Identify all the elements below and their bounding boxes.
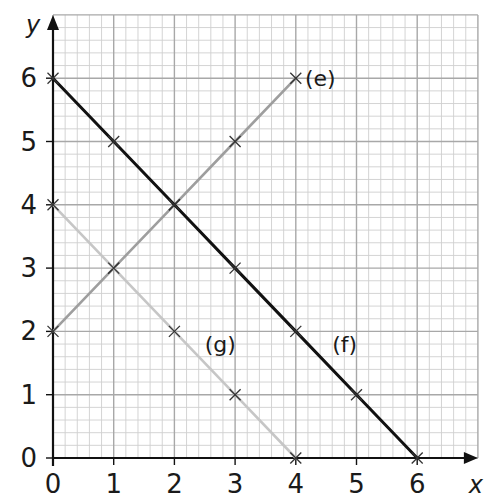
y-tick-label: 0: [20, 443, 37, 473]
x-tick-label: 6: [409, 469, 426, 499]
y-tick-label: 3: [20, 253, 37, 283]
x-tick-label: 2: [166, 469, 183, 499]
x-tick-label: 0: [45, 469, 62, 499]
series-label: (e): [305, 66, 336, 91]
y-tick-label: 6: [20, 63, 37, 93]
y-tick-label: 4: [20, 190, 37, 220]
x-tick-label: 1: [105, 469, 122, 499]
y-tick-label: 2: [20, 316, 37, 346]
series-e: (e): [48, 66, 336, 337]
series-label: (g): [205, 332, 236, 357]
grid-major: [53, 15, 478, 458]
y-tick-label: 1: [20, 380, 37, 410]
x-axis-arrow-icon: [464, 452, 478, 464]
grid-minor: [53, 15, 478, 458]
x-tick-label: 4: [288, 469, 305, 499]
x-axis-label: x: [468, 471, 484, 499]
y-axis-arrow-icon: [47, 15, 59, 30]
y-axis-label: y: [25, 11, 41, 39]
x-tick-label: 3: [227, 469, 244, 499]
series-label: (f): [332, 332, 357, 357]
axes: [47, 15, 478, 466]
x-tick-label: 5: [348, 469, 365, 499]
line-chart: 01234560123456 x y (e)(f)(g): [0, 0, 495, 502]
y-tick-label: 5: [20, 127, 37, 157]
